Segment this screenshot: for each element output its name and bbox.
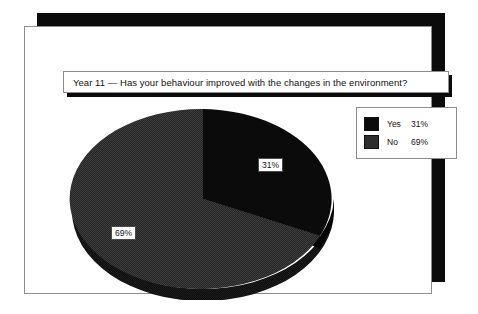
legend-value-no: 69% [411, 137, 428, 147]
chart-title-text: Year 11 — Has your behaviour improved wi… [73, 77, 407, 88]
chart-legend: Yes 31% No 69% [356, 107, 457, 159]
legend-value-yes: 31% [411, 119, 428, 129]
chart-title-box: Year 11 — Has your behaviour improved wi… [63, 71, 449, 93]
chart-card: Year 11 — Has your behaviour improved wi… [24, 26, 432, 294]
legend-item-no[interactable]: No 69% [364, 133, 456, 151]
pie-label-no: 69% [111, 226, 136, 240]
legend-item-yes[interactable]: Yes 31% [364, 115, 456, 133]
pie-chart-svg [69, 105, 337, 300]
pie-chart [69, 105, 337, 300]
pie-label-yes: 31% [258, 158, 283, 172]
legend-label-no: No [387, 137, 411, 147]
chart-page: Year 11 — Has your behaviour improved wi… [0, 0, 478, 314]
legend-swatch-no-icon [364, 135, 379, 149]
legend-label-yes: Yes [387, 119, 411, 129]
legend-swatch-yes-icon [364, 117, 379, 131]
